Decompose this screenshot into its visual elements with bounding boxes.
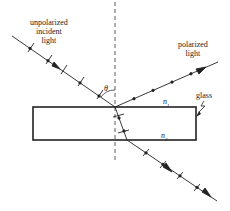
glass-label: glass (196, 91, 212, 100)
incident-light-label: unpolarized incident light (30, 18, 68, 45)
reflected-light-label: polarized light (178, 40, 208, 58)
n2-subscript: 2 (165, 137, 168, 142)
incident-ray (12, 36, 115, 107)
glass-leader (199, 101, 205, 112)
label-line: unpolarized (30, 18, 68, 27)
arrowhead-icon (52, 62, 60, 69)
arrowhead-icon (196, 67, 206, 74)
label-line: light (178, 49, 208, 58)
arrowhead-icon (202, 188, 211, 197)
n1-label: n1 (163, 97, 170, 110)
n1-subscript: 1 (167, 103, 170, 108)
label-line: light (30, 36, 68, 45)
n2-label: n2 (161, 131, 168, 144)
brewster-angle-diagram: unpolarized incident light polarized lig… (0, 0, 230, 211)
label-line: incident (30, 27, 68, 36)
glass-slab (33, 107, 196, 140)
label-line: polarized (178, 40, 208, 49)
transmitted-ray (127, 140, 217, 201)
theta-label: θ (104, 84, 108, 93)
